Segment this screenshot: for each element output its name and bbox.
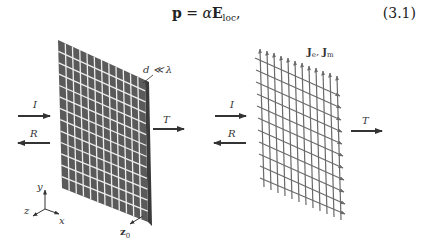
normal-label: z0 [120,226,130,240]
metasurface-figure: I R T d ≪ λ z0 y x z [0,0,421,250]
spacing-label: d ≪ λ [143,64,172,75]
electric-current-arrows [260,49,341,220]
incident-label-right: I [229,99,235,110]
axis-x-label: x [59,215,65,226]
right-panel: I R T Je, Jm [214,46,382,220]
incident-label: I [32,99,38,110]
reflected-label-right: R [227,128,236,139]
axis-y-label: y [36,181,43,192]
left-panel: I R T d ≪ λ z0 y x z [18,40,184,240]
reflected-label: R [29,128,38,139]
transmitted-label: T [163,114,171,125]
coordinate-axes: y x z [23,181,65,226]
currents-label: Je, Jm [306,46,334,59]
axis-z-label: z [23,205,30,216]
transmitted-label-right: T [362,115,370,126]
